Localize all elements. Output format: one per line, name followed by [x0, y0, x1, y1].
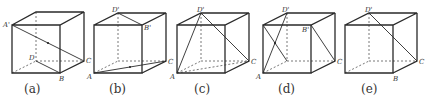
- label-d: D: [28, 54, 35, 62]
- label-c: C: [168, 58, 174, 66]
- caption-e: (e): [361, 82, 377, 96]
- label-a: A: [255, 73, 261, 81]
- label-b-prime: B': [143, 24, 151, 32]
- label-a: A: [86, 73, 92, 81]
- label-d-prime: D': [111, 6, 120, 14]
- label-d-prime: D': [196, 6, 205, 14]
- label-c: C: [419, 58, 425, 66]
- label-b: B: [392, 75, 398, 83]
- caption-a: (a): [24, 82, 41, 96]
- panel-a: A' D B C (a): [2, 12, 92, 96]
- caption-c: (c): [194, 82, 210, 96]
- caption-b: (b): [109, 82, 126, 96]
- cube-diagrams: A' D B C (a) D' B' A C (b) D' A C (c): [0, 0, 425, 104]
- label-b: B: [58, 75, 64, 83]
- panel-d: D' B' A C (d): [255, 6, 343, 96]
- label-d-prime: D': [281, 6, 290, 14]
- label-b-prime: B': [301, 26, 309, 34]
- panel-c: D' A C (c): [169, 6, 257, 96]
- panel-e: D' B C (e): [345, 6, 425, 96]
- label-c: C: [86, 57, 92, 65]
- label-a: A: [169, 73, 175, 81]
- label-d-prime: D': [364, 6, 373, 14]
- caption-d: (d): [278, 82, 295, 96]
- label-a-prime: A': [2, 21, 10, 29]
- label-c: C: [251, 58, 257, 66]
- panel-b: D' B' A C (b): [86, 6, 174, 96]
- label-c: C: [337, 58, 343, 66]
